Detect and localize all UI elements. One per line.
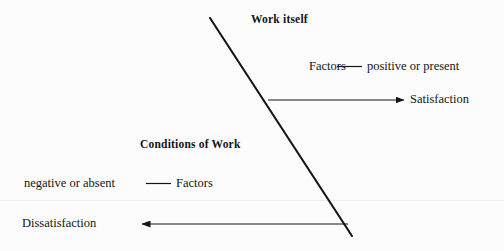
label-positive-or-present: positive or present: [367, 60, 459, 73]
diagram-canvas: Work itself Conditions of Work Factors p…: [0, 0, 504, 251]
diagonal-divider-line: [210, 18, 352, 236]
diagram-graphics: [0, 0, 504, 251]
label-satisfaction: Satisfaction: [410, 93, 469, 106]
label-factors-positive: Factors: [309, 60, 346, 73]
heading-conditions-of-work: Conditions of Work: [140, 139, 241, 151]
label-negative-or-absent: negative or absent: [24, 177, 115, 190]
label-factors-negative: Factors: [176, 177, 213, 190]
label-dissatisfaction: Dissatisfaction: [22, 217, 96, 230]
heading-work-itself: Work itself: [251, 14, 308, 26]
